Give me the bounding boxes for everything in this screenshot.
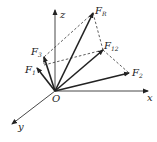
dashed-construction-line [103, 50, 129, 73]
vector-f-1 [37, 68, 55, 91]
vector-label-f-12: F12 [103, 40, 119, 52]
dashed-construction-line [93, 13, 103, 50]
y-axis [12, 91, 55, 124]
vector-label-f-2: F2 [131, 67, 143, 79]
origin-label: O [52, 93, 60, 104]
z-axis-label: z [59, 9, 66, 20]
vector-label-f-1: F1 [24, 64, 36, 76]
vector-f-r [55, 13, 93, 91]
vector-f-3 [44, 57, 55, 91]
vector-label-f-r: FR [94, 5, 107, 17]
vector-label-f-3: F3 [30, 46, 42, 58]
y-axis-label: y [17, 121, 24, 132]
x-axis-label: x [147, 92, 153, 103]
dashed-construction-line [44, 13, 93, 57]
vector-diagram: xyzFRF12F2F3F1O [0, 0, 157, 142]
